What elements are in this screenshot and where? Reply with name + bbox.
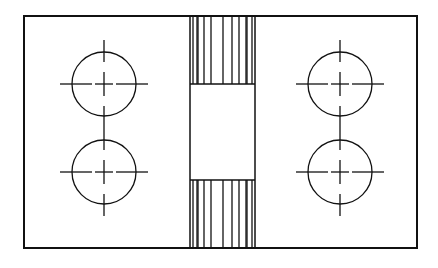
hole-right-lower: [296, 128, 384, 216]
hole-left-upper: [60, 40, 148, 128]
hatching-bottom: [193, 180, 252, 248]
outer-frame: [24, 16, 417, 248]
hatching-top: [193, 16, 252, 84]
holes-group: [60, 40, 384, 216]
hole-left-lower: [60, 128, 148, 216]
hole-right-upper: [296, 40, 384, 128]
outer-frame-rect: [24, 16, 417, 248]
mechanical-drawing: [0, 0, 438, 268]
